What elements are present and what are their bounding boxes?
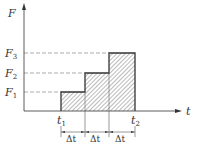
y-axis-label: F	[7, 7, 16, 20]
t1-label: t1	[57, 114, 66, 128]
step-force-diagram: F t F1 F2 F3 t1 t2 Δt Δt Δt	[0, 0, 201, 154]
step-3	[109, 53, 135, 111]
f1-label: F1	[4, 86, 17, 100]
step-2	[85, 73, 109, 111]
interval-3-label: Δt	[115, 134, 125, 144]
interval-1-label: Δt	[66, 134, 76, 144]
step-1	[61, 92, 85, 111]
f2-label: F2	[4, 67, 17, 81]
y-axis-arrow-icon	[22, 3, 26, 10]
steps	[61, 53, 135, 111]
x-axis-arrow-icon	[175, 109, 182, 113]
f3-label: F3	[4, 47, 17, 61]
interval-2-label: Δt	[90, 134, 100, 144]
x-axis-label: t	[186, 105, 191, 118]
t2-label: t2	[131, 114, 140, 128]
